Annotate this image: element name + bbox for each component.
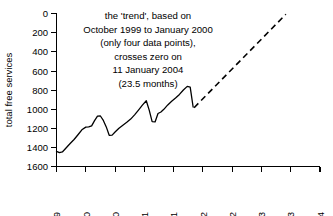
y-tick-label: 1200 xyxy=(27,123,48,134)
x-axis-tick-labels: Oct 99 Apr 00 Oct 00 Apr 01 Oct 01 Apr 0… xyxy=(51,212,326,216)
x-tick-label: Apr 03 xyxy=(256,212,267,216)
annotation-line: the 'trend', based on xyxy=(105,10,191,21)
y-tick-label: 0 xyxy=(43,8,48,19)
x-tick-label: Oct 99 xyxy=(51,212,62,216)
annotation-line: crosses zero on xyxy=(114,51,182,62)
x-axis-ticks xyxy=(57,167,321,173)
x-tick-label: Oct 01 xyxy=(168,212,179,216)
annotation-line: October 1999 to January 2000 xyxy=(83,24,213,35)
x-tick-label: Oct 02 xyxy=(227,212,238,216)
x-tick-label: Apr 02 xyxy=(198,212,209,216)
y-tick-label: 1600 xyxy=(27,161,48,172)
annotation-line: (23.5 months) xyxy=(118,78,177,89)
x-tick-label: Apr 04 xyxy=(315,212,326,216)
y-tick-label: 600 xyxy=(32,66,48,77)
line-chart: 0 200 400 600 800 1000 1200 1400 1600 Oc… xyxy=(0,0,333,216)
y-tick-label: 400 xyxy=(32,46,48,57)
x-tick-label: Apr 00 xyxy=(81,212,92,216)
y-tick-label: 1400 xyxy=(27,142,48,153)
y-axis-ticks xyxy=(51,14,57,167)
chart-container: 0 200 400 600 800 1000 1200 1400 1600 Oc… xyxy=(0,0,333,216)
x-tick-label: Oct 03 xyxy=(285,212,296,216)
annotation-line: 11 January 2004 xyxy=(113,64,184,75)
x-tick-label: Oct 00 xyxy=(110,212,121,216)
y-tick-label: 800 xyxy=(32,85,48,96)
y-tick-label: 200 xyxy=(32,27,48,38)
trend-annotation: the 'trend', based on October 1999 to Ja… xyxy=(83,10,213,89)
data-series-line xyxy=(57,86,194,152)
annotation-line: (only four data points), xyxy=(100,37,195,48)
x-tick-label: Apr 01 xyxy=(139,212,150,216)
y-tick-label: 1000 xyxy=(27,104,48,115)
y-axis-title: total free services xyxy=(3,53,14,128)
y-axis-tick-labels: 0 200 400 600 800 1000 1200 1400 1600 xyxy=(27,8,48,172)
